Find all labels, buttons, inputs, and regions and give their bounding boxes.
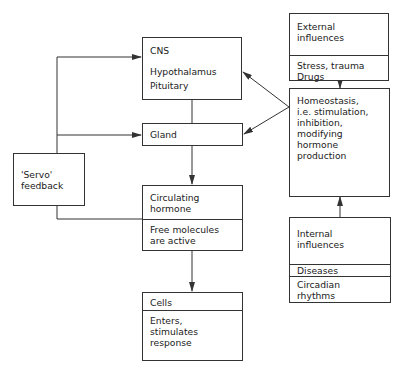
cns-line-pituitary: Pituitary	[150, 80, 188, 91]
node-cns: CNS Hypothalamus Pituitary	[142, 37, 242, 100]
node-servo-feedback: 'Servo' feedback	[13, 153, 85, 206]
cns-line-hypothalamus: Hypothalamus	[150, 66, 217, 77]
internal-title: Internal influences	[290, 218, 390, 264]
node-external-influences: External influences Stress, trauma Drugs	[289, 13, 389, 81]
node-internal-influences: Internal influences Diseases Circadian r…	[289, 217, 391, 303]
gland-title: Gland	[150, 129, 177, 140]
node-homeostasis: Homeostasis, i.e. stimulation, inhibitio…	[289, 88, 390, 197]
homeostasis-title: Homeostasis, i.e. stimulation, inhibitio…	[297, 95, 368, 161]
cells-sub: Enters, stimulates response	[143, 310, 242, 348]
internal-sub-circadian: Circadian rhythms	[290, 276, 390, 301]
cns-title: CNS	[150, 45, 169, 56]
internal-sub-diseases: Diseases	[290, 264, 390, 276]
servo-title: 'Servo' feedback	[21, 169, 63, 191]
external-sub: Stress, trauma Drugs	[290, 55, 388, 82]
external-title: External influences	[290, 14, 388, 55]
node-gland: Gland	[142, 123, 243, 146]
circulating-title: Circulating hormone	[143, 186, 242, 219]
circulating-sub: Free molecules are active	[143, 219, 242, 246]
node-cells: Cells Enters, stimulates response	[142, 292, 243, 361]
cells-title: Cells	[143, 293, 242, 310]
node-circulating-hormone: Circulating hormone Free molecules are a…	[142, 185, 243, 251]
